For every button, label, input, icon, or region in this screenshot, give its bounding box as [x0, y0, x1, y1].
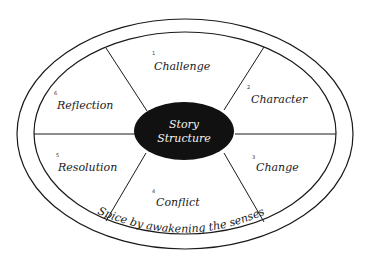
segment-number-change: 3 [252, 154, 255, 160]
segment-number-character: 2 [247, 84, 250, 90]
segment-label-resolution: Resolution [57, 161, 117, 174]
segment-label-conflict: Conflict [156, 196, 200, 209]
segment-label-challenge: Challenge [154, 60, 211, 73]
segment-label-change: Change [256, 161, 299, 174]
segment-number-reflection: 6 [54, 90, 57, 96]
segment-number-resolution: 5 [56, 152, 59, 158]
center-title-line1: Story [169, 118, 200, 131]
segment-number-challenge: 1 [152, 50, 155, 56]
segment-label-character: Character [251, 93, 308, 106]
center-title-line2: Structure [157, 132, 211, 145]
center-hub [134, 102, 234, 160]
segment-label-reflection: Reflection [56, 99, 113, 112]
story-structure-diagram: Story Structure 1 Challenge 2 Character … [0, 0, 369, 267]
segment-number-conflict: 4 [152, 188, 155, 194]
